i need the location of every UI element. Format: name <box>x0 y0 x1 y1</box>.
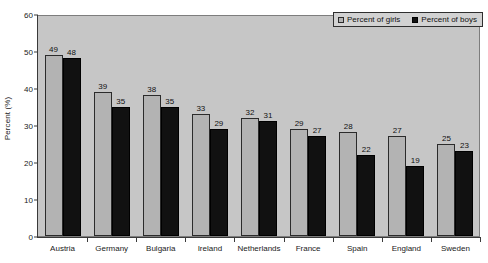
bar-group: 2822 <box>333 16 382 236</box>
bar-value-label-boys: 31 <box>259 111 277 120</box>
bar-value-label-boys: 19 <box>406 156 424 165</box>
bar-value-label-boys: 35 <box>161 97 179 106</box>
bar-value-label-boys: 27 <box>308 126 326 135</box>
x-axis-tick-mark <box>185 238 186 242</box>
y-axis-tick-label: 10 <box>24 196 33 205</box>
bar-group: 2719 <box>382 16 431 236</box>
bar-girls <box>290 129 308 236</box>
bar-group: 3329 <box>185 16 234 236</box>
bar-group: 3835 <box>136 16 185 236</box>
x-axis-tick-mark <box>136 238 137 242</box>
bar-value-label-boys: 22 <box>357 145 375 154</box>
x-axis-tick-label: Germany <box>95 244 128 253</box>
y-axis-tick-label: 30 <box>24 122 33 131</box>
bar-boys <box>112 107 130 237</box>
legend-entry-girls: Percent of girls <box>338 15 400 24</box>
x-axis-tick-label: Sweden <box>441 244 470 253</box>
x-axis-tick-mark <box>284 238 285 242</box>
bar-value-label-girls: 49 <box>45 45 63 54</box>
bar-girls <box>143 95 161 236</box>
bar-group: 2927 <box>284 16 333 236</box>
bar-value-label-girls: 38 <box>143 85 161 94</box>
bar-girls <box>45 55 63 236</box>
x-axis-tick-mark <box>382 238 383 242</box>
bar-value-label-girls: 27 <box>388 126 406 135</box>
bar-value-label-girls: 28 <box>339 122 357 131</box>
legend-label-girls: Percent of girls <box>347 15 400 24</box>
x-axis-tick-label: Austria <box>50 244 75 253</box>
bar-value-label-girls: 32 <box>241 108 259 117</box>
x-axis-tick-label: England <box>392 244 421 253</box>
bar-boys <box>161 107 179 237</box>
y-axis-tick-label: 20 <box>24 159 33 168</box>
x-axis-tick-label: Ireland <box>198 244 222 253</box>
y-axis-tick-label: 60 <box>24 11 33 20</box>
bar-group: 4948 <box>38 16 87 236</box>
bar-boys <box>210 129 228 236</box>
y-axis-title-text: Percent (%) <box>4 97 13 140</box>
bar-value-label-girls: 29 <box>290 119 308 128</box>
bar-boys <box>259 121 277 236</box>
bar-value-label-boys: 35 <box>112 97 130 106</box>
bar-value-label-boys: 48 <box>63 48 81 57</box>
legend-label-boys: Percent of boys <box>421 15 477 24</box>
x-axis-tick-mark <box>333 238 334 242</box>
x-axis-tick-label: France <box>296 244 321 253</box>
x-axis-tick-mark <box>87 238 88 242</box>
x-axis-tick-mark <box>431 238 432 242</box>
bars-container: 494839353835332932312927282227192523 <box>38 16 479 236</box>
legend-entry-boys: Percent of boys <box>412 15 477 24</box>
bar-girls <box>339 132 357 236</box>
bar-girls <box>192 114 210 236</box>
bar-boys <box>406 166 424 236</box>
bar-value-label-boys: 23 <box>455 141 473 150</box>
bar-boys <box>308 136 326 236</box>
y-axis: 0102030405060 <box>16 0 38 263</box>
plot-area: 494839353835332932312927282227192523 <box>38 15 480 237</box>
legend-swatch-boys-icon <box>412 17 418 23</box>
bar-boys <box>63 58 81 236</box>
bar-girls <box>437 144 455 237</box>
bar-value-label-girls: 33 <box>192 104 210 113</box>
bar-boys <box>357 155 375 236</box>
y-axis-title: Percent (%) <box>0 0 16 237</box>
bar-group: 3231 <box>234 16 283 236</box>
x-axis-tick-mark <box>480 238 481 242</box>
y-axis-tick-label: 40 <box>24 85 33 94</box>
bar-value-label-girls: 39 <box>94 82 112 91</box>
y-axis-tick-label: 0 <box>29 233 33 242</box>
bar-boys <box>455 151 473 236</box>
x-axis-tick-mark <box>234 238 235 242</box>
bar-girls <box>94 92 112 236</box>
x-axis-tick-label: Spain <box>347 244 367 253</box>
y-axis-tick-label: 50 <box>24 48 33 57</box>
bar-girls <box>388 136 406 236</box>
bar-value-label-girls: 25 <box>437 134 455 143</box>
x-axis-line <box>37 237 481 238</box>
bar-girls <box>241 118 259 236</box>
chart-legend: Percent of girls Percent of boys <box>333 12 483 27</box>
bar-group: 2523 <box>431 16 480 236</box>
bar-group: 3935 <box>87 16 136 236</box>
x-axis-tick-label: Bulgaria <box>146 244 175 253</box>
bar-value-label-boys: 29 <box>210 119 228 128</box>
x-axis-tick-label: Netherlands <box>237 244 280 253</box>
legend-swatch-girls-icon <box>338 17 344 23</box>
bar-chart: Percent (%) 0102030405060 49483935383533… <box>0 0 488 263</box>
